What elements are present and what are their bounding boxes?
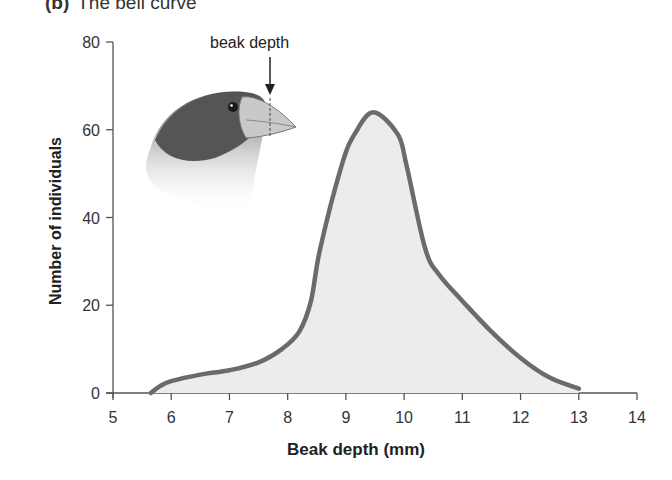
x-tick-label: 8	[283, 409, 292, 426]
y-tick-label: 20	[82, 297, 100, 314]
x-tick-label: 6	[167, 409, 176, 426]
y-tick-label: 60	[82, 122, 100, 139]
y-tick-label: 40	[82, 210, 100, 227]
x-tick-label: 7	[225, 409, 234, 426]
y-tick-label: 0	[91, 385, 100, 402]
x-tick-label: 9	[341, 409, 350, 426]
x-tick-label: 12	[512, 409, 530, 426]
x-tick-label: 5	[109, 409, 118, 426]
beak-depth-annotation: beak depth	[210, 34, 289, 52]
y-axis-label: Number of individuals	[47, 137, 65, 305]
bell-curve-chart: 020406080567891011121314	[0, 0, 672, 480]
x-axis-label: Beak depth (mm)	[287, 440, 425, 460]
x-tick-label: 13	[570, 409, 588, 426]
y-tick-label: 80	[82, 34, 100, 51]
finch-head-icon	[146, 57, 296, 215]
x-tick-label: 11	[454, 409, 471, 426]
x-tick-label: 14	[628, 409, 646, 426]
x-tick-label: 10	[395, 409, 413, 426]
